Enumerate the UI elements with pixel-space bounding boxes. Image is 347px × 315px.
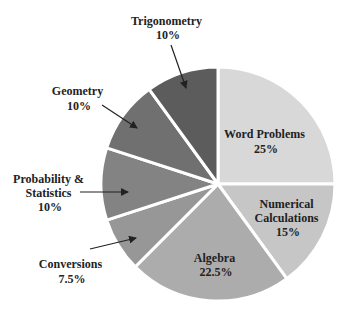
label-probability: Probability & Statistics 10% bbox=[13, 172, 87, 214]
label-trigonometry: Trigonometry 10% bbox=[131, 14, 205, 42]
label-conversions: Conversions 7.5% bbox=[39, 257, 105, 286]
slice-word-problems bbox=[218, 67, 335, 184]
pie-chart: Trigonometry 10% Geometry 10% Word Probl… bbox=[0, 0, 347, 315]
label-geometry: Geometry 10% bbox=[52, 84, 106, 113]
label-algebra: Algebra 22.5% bbox=[194, 251, 238, 279]
